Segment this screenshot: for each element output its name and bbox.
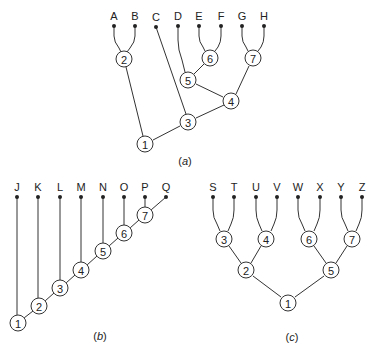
edge xyxy=(341,197,348,231)
edge xyxy=(24,311,33,318)
node-1: 1 xyxy=(10,315,26,331)
edge xyxy=(213,197,220,231)
node-label: 2 xyxy=(36,301,42,313)
edge xyxy=(45,293,54,301)
leaf-label: J xyxy=(14,181,20,193)
leaf-label: F xyxy=(218,10,225,22)
leaf-dot-icon xyxy=(101,195,105,199)
edge xyxy=(151,197,166,210)
edge xyxy=(156,27,186,114)
leaf-dot-icon xyxy=(339,195,343,199)
caption-c: (c) xyxy=(286,331,299,343)
leaf-dot-icon xyxy=(262,24,266,28)
node-label: 7 xyxy=(250,53,256,65)
leaf-n: N xyxy=(99,181,107,199)
edge xyxy=(87,256,97,265)
edge xyxy=(253,276,281,297)
edge xyxy=(109,238,118,246)
node-1: 1 xyxy=(280,295,296,311)
edge xyxy=(199,26,205,51)
leaf-dot-icon xyxy=(79,195,83,199)
leaf-y: Y xyxy=(337,181,345,199)
node-label: 3 xyxy=(185,117,191,129)
leaf-c: C xyxy=(152,11,160,29)
leaf-label: T xyxy=(231,181,238,193)
edge xyxy=(194,64,204,74)
node-7: 7 xyxy=(344,231,360,247)
node-label: 1 xyxy=(15,318,21,330)
leaf-label: D xyxy=(174,10,182,22)
leaf-label: H xyxy=(260,10,268,22)
leaf-label: K xyxy=(34,181,42,193)
edge xyxy=(114,26,121,52)
leaf-b: B xyxy=(131,10,138,28)
node-label: 6 xyxy=(207,53,213,65)
node-label: 7 xyxy=(349,234,355,246)
tree-c: STUVWXYZ1234567(c) xyxy=(209,181,365,343)
node-label: 1 xyxy=(142,139,148,151)
leaf-label: W xyxy=(293,181,304,193)
leaf-v: V xyxy=(273,181,281,199)
leaf-q: Q xyxy=(162,181,171,199)
leaf-m: M xyxy=(76,181,85,199)
leaf-label: U xyxy=(252,181,260,193)
node-6: 6 xyxy=(202,50,218,66)
node-7: 7 xyxy=(245,50,261,66)
edge xyxy=(314,246,326,263)
node-3: 3 xyxy=(52,280,68,296)
edge xyxy=(196,105,224,118)
edge xyxy=(242,26,248,51)
edge xyxy=(258,26,264,51)
leaf-w: W xyxy=(293,181,304,199)
leaf-e: E xyxy=(195,10,202,28)
node-label: 1 xyxy=(285,298,291,310)
edge xyxy=(126,67,143,136)
caption-b: (b) xyxy=(93,330,106,342)
leaf-dot-icon xyxy=(112,24,116,28)
edge xyxy=(127,26,135,52)
leaf-label: M xyxy=(76,181,85,193)
tree-a: ABCDEFGH1234567(a) xyxy=(110,10,268,167)
leaf-dot-icon xyxy=(15,195,19,199)
leaf-label: G xyxy=(238,10,247,22)
node-1: 1 xyxy=(137,136,153,152)
edge xyxy=(153,126,180,140)
node-label: 5 xyxy=(100,246,106,258)
edge xyxy=(314,197,320,231)
leaf-u: U xyxy=(252,181,260,199)
leaf-dot-icon xyxy=(318,195,322,199)
edge xyxy=(256,197,262,231)
leaf-label: O xyxy=(120,181,129,193)
node-2: 2 xyxy=(116,51,132,67)
leaf-dot-icon xyxy=(232,195,236,199)
edge xyxy=(271,197,277,231)
leaf-label: S xyxy=(209,181,216,193)
edge xyxy=(251,246,261,263)
node-label: 2 xyxy=(121,54,127,66)
node-6: 6 xyxy=(301,231,317,247)
leaf-dot-icon xyxy=(219,24,223,28)
edge xyxy=(66,275,75,283)
leaf-label: C xyxy=(152,11,160,23)
leaf-o: O xyxy=(120,181,129,199)
node-6: 6 xyxy=(116,225,132,241)
leaf-dot-icon xyxy=(360,195,364,199)
edge xyxy=(336,246,347,263)
leaf-label: Z xyxy=(359,181,366,193)
edge xyxy=(229,246,241,263)
leaf-label: B xyxy=(131,10,138,22)
node-label: 4 xyxy=(228,96,234,108)
leaf-s: S xyxy=(209,181,216,199)
leaf-x: X xyxy=(316,181,324,199)
leaf-l: L xyxy=(57,181,63,199)
edge xyxy=(215,26,221,51)
edge xyxy=(236,66,249,94)
leaf-dot-icon xyxy=(143,195,147,199)
leaf-dot-icon xyxy=(296,195,300,199)
leaf-label: V xyxy=(273,181,281,193)
edge xyxy=(295,276,324,297)
node-label: 4 xyxy=(78,265,84,277)
leaf-label: P xyxy=(141,181,148,193)
node-label: 4 xyxy=(263,234,269,246)
leaf-dot-icon xyxy=(36,195,40,199)
